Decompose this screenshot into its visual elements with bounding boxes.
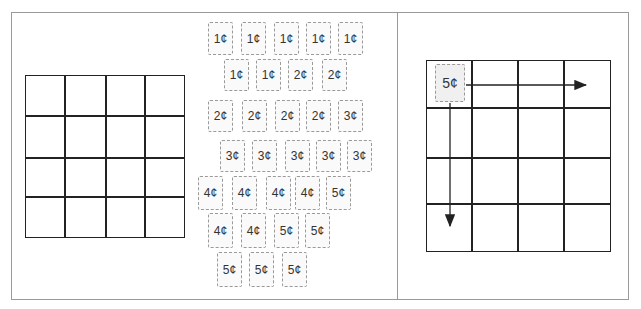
- direction-arrows: [0, 0, 641, 309]
